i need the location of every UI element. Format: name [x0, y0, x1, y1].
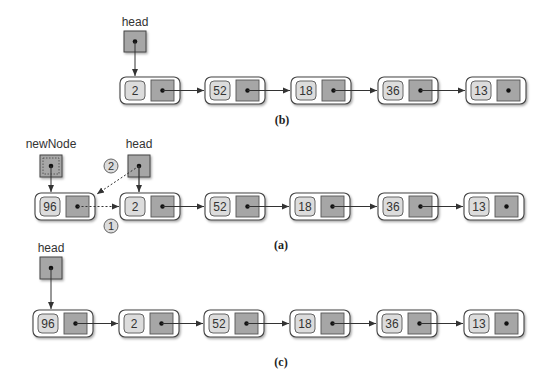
newnode-pointer-label: newNode — [26, 137, 77, 151]
step-2-badge: 2 — [104, 159, 118, 173]
node-value: 2 — [132, 84, 139, 98]
node-value: 36 — [385, 317, 399, 331]
head-pointer-label: head — [126, 137, 153, 151]
list-node: 13 — [464, 193, 524, 220]
node-value: 18 — [299, 84, 313, 98]
node-value: 2 — [132, 200, 139, 214]
node-value: 52 — [212, 317, 226, 331]
node-value: 36 — [386, 84, 400, 98]
list-node: 13 — [464, 310, 524, 337]
node-value: 96 — [43, 200, 57, 214]
node-value: 36 — [386, 200, 400, 214]
list-node: 13 — [466, 77, 526, 104]
next-pointer-dot — [506, 88, 510, 92]
svg-text:1: 1 — [108, 220, 114, 232]
step-1-badge: 1 — [104, 219, 118, 233]
head-pointer-label: head — [122, 15, 149, 29]
node-value: 52 — [213, 84, 227, 98]
node-value: 13 — [474, 84, 488, 98]
caption-a: (a) — [274, 238, 288, 252]
node-value: 2 — [131, 317, 138, 331]
diagram-a: newNode head 2 96252183613 1 (a) — [26, 137, 524, 252]
head-pointer-label: head — [38, 241, 65, 255]
node-value: 13 — [472, 317, 486, 331]
linked-list-diagram: head 252183613 (b) newNode head 2 962521… — [0, 0, 554, 377]
diagram-b: head 252183613 (b) — [120, 15, 526, 127]
next-pointer-dot — [504, 204, 508, 208]
node-value: 18 — [298, 317, 312, 331]
caption-c: (c) — [274, 355, 287, 369]
node-value: 18 — [298, 200, 312, 214]
next-pointer-dot — [504, 321, 508, 325]
caption-b: (b) — [275, 113, 290, 127]
node-value: 13 — [472, 200, 486, 214]
node-value: 52 — [213, 200, 227, 214]
node-value: 96 — [41, 317, 55, 331]
diagram-c: head 96252183613 (c) — [33, 241, 524, 369]
svg-text:2: 2 — [108, 160, 114, 172]
